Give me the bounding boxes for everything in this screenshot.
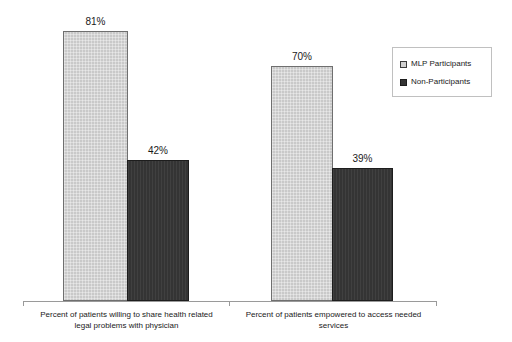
legend-item-non-participants[interactable]: Non-Participants — [400, 73, 491, 91]
data-label-series1-cat1: 39% — [332, 153, 393, 165]
legend-swatch-icon-series0 — [400, 61, 407, 68]
bar-series1-cat0 — [127, 160, 189, 301]
legend: MLP Participants Non-Participants — [392, 47, 492, 97]
category-axis-line — [23, 301, 437, 302]
axis-tick-start — [23, 301, 24, 306]
category-label-1-line-1: Percent of patients empowered to access … — [231, 309, 436, 320]
data-label-series0-cat1: 70% — [271, 51, 333, 63]
legend-label-series0: MLP Participants — [411, 59, 471, 69]
legend-label-series1: Non-Participants — [411, 77, 470, 87]
data-label-series0-cat0: 81% — [63, 16, 128, 28]
bar-series0-cat1 — [271, 66, 333, 301]
legend-swatch-icon-series1 — [400, 79, 407, 86]
category-label-1-line-2: services — [231, 320, 436, 331]
bar-series1-cat1 — [332, 168, 393, 301]
data-label-series1-cat0: 42% — [127, 145, 189, 157]
category-label-0: Percent of patients willing to share hea… — [24, 309, 229, 331]
category-label-1: Percent of patients empowered to access … — [231, 309, 436, 331]
legend-item-mlp-participants[interactable]: MLP Participants — [400, 55, 491, 73]
category-label-0-line-2: legal problems with physician — [24, 320, 229, 331]
axis-tick-middle — [229, 301, 230, 306]
category-label-0-line-1: Percent of patients willing to share hea… — [24, 309, 229, 320]
bar-chart: 81% 42% 70% 39% Percent of patients will… — [0, 0, 512, 342]
bar-series0-cat0 — [63, 31, 128, 301]
axis-tick-end — [436, 301, 437, 306]
